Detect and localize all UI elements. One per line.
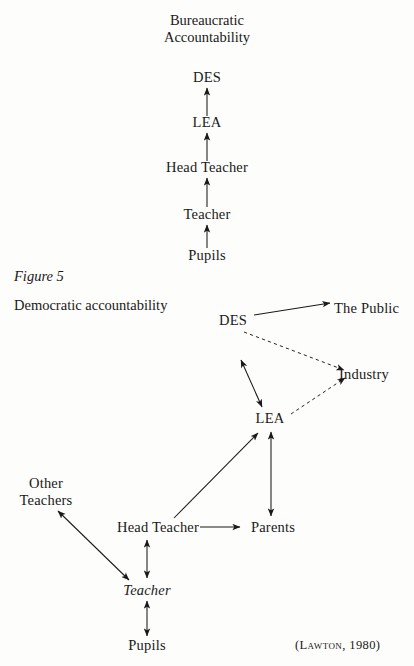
edge-headteacher-to-lea-lower [174,433,258,518]
node-democratic-lea: LEA [240,411,300,427]
node-the-public: The Public [334,301,414,317]
edge-des-to-lea [241,360,262,407]
node-democratic-teacher: Teacher [97,583,197,599]
node-other-teachers: Other Teachers [8,475,84,508]
edge-des-to-the-public [254,303,330,315]
node-democratic-pupils: Pupils [97,638,197,654]
figure-label: Figure 5 [14,268,64,285]
figure-caption: Democratic accountability [14,297,167,314]
bureaucratic-accountability-heading: Bureaucratic Accountability [107,12,307,46]
node-bureaucratic-des: DES [157,70,257,86]
source-citation: (Lawton, 1980) [295,638,380,653]
edge-des-to-industry [244,332,344,370]
edge-lea-to-industry [291,378,345,414]
node-bureaucratic-lea: LEA [157,115,257,131]
node-bureaucratic-pupils: Pupils [147,248,267,264]
node-parents: Parents [242,520,304,536]
node-industry: Industry [339,367,414,383]
node-democratic-head-teacher: Head Teacher [98,520,218,536]
node-democratic-des: DES [203,313,263,329]
node-bureaucratic-head-teacher: Head Teacher [137,160,277,176]
figure-page: Bureaucratic Accountability [0,0,414,666]
node-bureaucratic-teacher: Teacher [147,207,267,223]
diagram-edges [0,0,414,666]
